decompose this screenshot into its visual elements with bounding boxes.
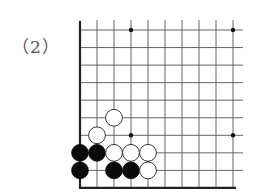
star-point (231, 133, 235, 137)
board-grid (79, 20, 243, 189)
black-stone (89, 144, 106, 161)
star-point (129, 133, 133, 137)
white-stone (89, 127, 106, 144)
star-point (129, 28, 133, 32)
black-stone (123, 162, 140, 179)
white-stone (140, 162, 157, 179)
go-board-diagram (0, 0, 256, 192)
white-stone (106, 109, 123, 126)
black-stone (106, 162, 123, 179)
white-stone (140, 144, 157, 161)
stones-layer (72, 109, 157, 178)
white-stone (123, 144, 140, 161)
black-stone (72, 144, 89, 161)
white-stone (106, 144, 123, 161)
star-point (231, 28, 235, 32)
black-stone (72, 162, 89, 179)
